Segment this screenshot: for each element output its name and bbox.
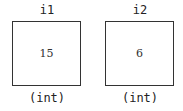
variable-value: 6	[106, 22, 173, 85]
variable-type: (int)	[12, 91, 82, 105]
variable-name: i2	[105, 3, 175, 17]
value-box: 6	[105, 21, 174, 86]
value-box: 15	[12, 21, 81, 86]
variable-i1: i1 15 (int)	[12, 0, 82, 111]
variable-i2: i2 6 (int)	[105, 0, 175, 111]
variable-name: i1	[12, 3, 82, 17]
variable-type: (int)	[105, 91, 175, 105]
variable-value: 15	[13, 22, 80, 85]
